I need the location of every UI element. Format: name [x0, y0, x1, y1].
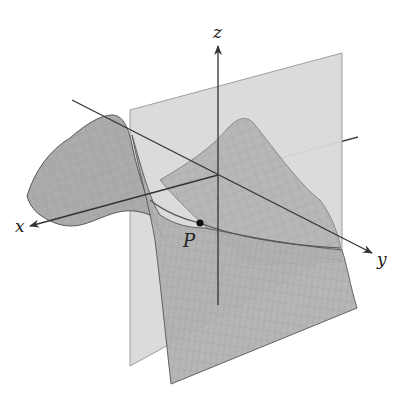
- point-p: [196, 219, 203, 226]
- point-p-label: P: [183, 232, 195, 250]
- y-axis-label: y: [377, 251, 387, 268]
- z-axis-label: z: [213, 24, 222, 41]
- surface-diagram: [0, 0, 408, 403]
- x-axis-label: x: [15, 218, 25, 235]
